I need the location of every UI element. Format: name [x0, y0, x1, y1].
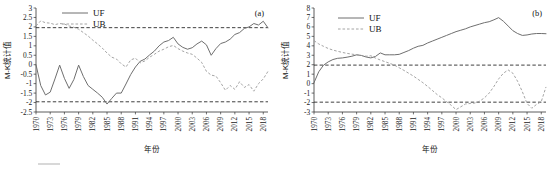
x-tick-label: 2012 — [231, 117, 239, 132]
x-tick-label: 2009 — [217, 117, 225, 132]
y-tick-label: -2 — [26, 98, 32, 107]
x-tick-label: 2009 — [495, 117, 503, 132]
x-tick-label: 1979 — [353, 117, 361, 132]
x-tick-label: 1997 — [438, 117, 446, 132]
caption-fragment — [38, 163, 60, 165]
x-tick-label: 2003 — [189, 117, 197, 132]
mk-mutation-test-figure: -2.5-2-1.5-1-0.500.511.522.5319701973197… — [0, 0, 557, 172]
x-tick-label: 2018 — [538, 117, 546, 132]
x-tick-label: 1973 — [47, 117, 55, 132]
legend-uf-label: UF — [93, 8, 105, 18]
y-tick-label: 6 — [306, 22, 310, 31]
y-tick-label: 3 — [28, 4, 32, 13]
y-tick-label: 7 — [306, 13, 310, 22]
x-tick-label: 1982 — [89, 117, 97, 132]
chart-svg-b: -3-2-10123456781970197319761979198219851… — [278, 0, 556, 172]
y-tick-label: -0.5 — [20, 70, 32, 79]
x-tick-label: 2018 — [260, 117, 268, 132]
y-tick-label: 8 — [306, 4, 310, 13]
y-tick-label: -3 — [304, 108, 310, 117]
x-tick-label: 2015 — [524, 117, 532, 132]
x-tick-label: 1994 — [424, 117, 432, 132]
x-tick-label: 1973 — [325, 117, 333, 132]
y-tick-label: 4 — [306, 41, 310, 50]
y-tick-label: 2 — [306, 60, 310, 69]
y-axis-title: M-K统计值 — [2, 41, 12, 79]
uf-series-path — [314, 18, 546, 83]
x-tick-label: 1979 — [75, 117, 83, 132]
y-tick-label: 2 — [28, 22, 32, 31]
x-tick-label: 1982 — [367, 117, 375, 132]
y-tick-label: -1 — [304, 89, 310, 98]
x-tick-label: 1970 — [311, 117, 319, 132]
y-tick-label: -2.5 — [20, 108, 32, 117]
y-tick-label: 0 — [306, 79, 310, 88]
y-tick-label: -1.5 — [20, 89, 32, 98]
y-tick-label: 5 — [306, 32, 310, 41]
y-axis-title: M-K统计值 — [280, 41, 290, 79]
y-tick-label: 1.5 — [23, 32, 33, 41]
x-tick-label: 2012 — [509, 117, 517, 132]
panel-tag-label: (a) — [255, 9, 265, 18]
x-axis-title: 年份 — [422, 144, 438, 154]
x-tick-label: 1994 — [146, 117, 154, 132]
x-tick-label: 1988 — [118, 117, 126, 132]
chart-panel-a: -2.5-2-1.5-1-0.500.511.522.5319701973197… — [0, 0, 278, 172]
legend-ub-label: UB — [369, 24, 382, 34]
x-tick-label: 2000 — [175, 117, 183, 132]
x-tick-label: 2015 — [246, 117, 254, 132]
y-tick-label: 3 — [306, 51, 310, 60]
ub-series-path — [36, 21, 268, 91]
y-tick-label: 1 — [306, 70, 310, 79]
y-tick-label: 1 — [28, 41, 32, 50]
plot-area-b: -3-2-10123456781970197319761979198219851… — [278, 0, 556, 172]
x-tick-label: 2006 — [203, 117, 211, 132]
x-tick-label: 1970 — [33, 117, 41, 132]
x-tick-label: 2006 — [481, 117, 489, 132]
x-tick-label: 1985 — [104, 117, 112, 132]
y-tick-label: 0 — [28, 60, 32, 69]
chart-svg-a: -2.5-2-1.5-1-0.500.511.522.5319701973197… — [0, 0, 278, 172]
x-tick-label: 1991 — [410, 117, 418, 132]
panel-tag-label: (b) — [532, 9, 542, 18]
y-tick-label: 0.5 — [23, 51, 33, 60]
x-tick-label: 1985 — [382, 117, 390, 132]
y-tick-label: 2.5 — [23, 13, 33, 22]
legend-uf-label: UF — [369, 13, 381, 23]
x-axis-title: 年份 — [144, 144, 160, 154]
x-tick-label: 1991 — [132, 117, 140, 132]
x-tick-label: 2003 — [467, 117, 475, 132]
x-tick-label: 1997 — [160, 117, 168, 132]
plot-area-a: -2.5-2-1.5-1-0.500.511.522.5319701973197… — [0, 0, 278, 172]
chart-panel-b: -3-2-10123456781970197319761979198219851… — [278, 0, 556, 172]
y-tick-label: -1 — [26, 79, 32, 88]
x-tick-label: 1976 — [339, 117, 347, 132]
y-tick-label: -2 — [304, 98, 310, 107]
ub-series-path — [314, 41, 546, 110]
x-tick-label: 2000 — [453, 117, 461, 132]
uf-series-path — [36, 21, 268, 104]
x-tick-label: 1988 — [396, 117, 404, 132]
legend-ub-label: UB — [93, 19, 106, 29]
x-tick-label: 1976 — [61, 117, 69, 132]
